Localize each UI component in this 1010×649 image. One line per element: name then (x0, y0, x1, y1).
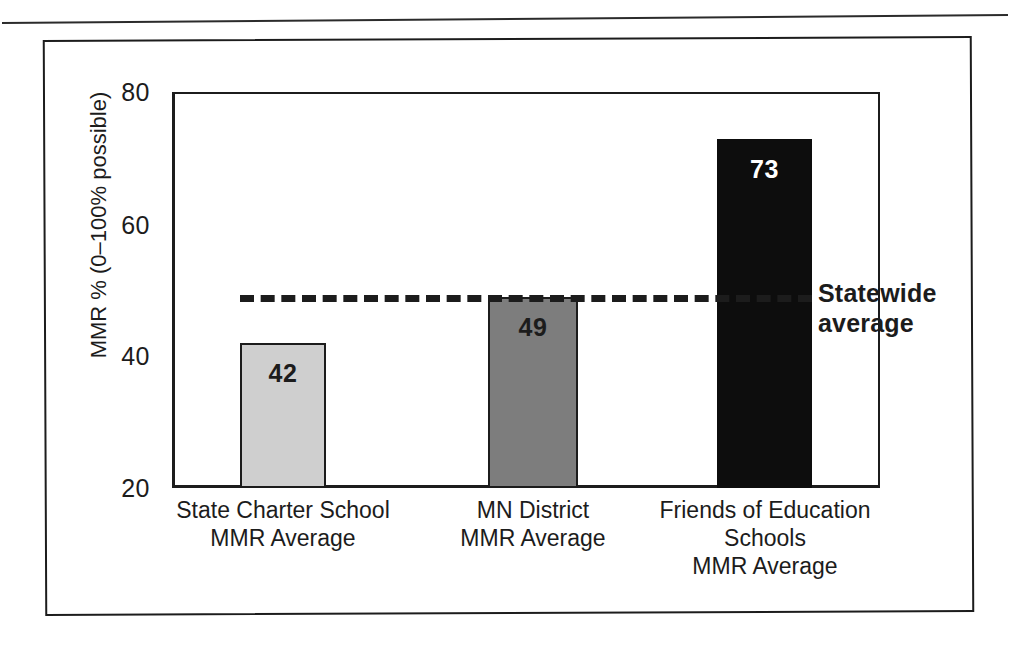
statewide-average-label: Statewide average (818, 278, 937, 338)
x-axis-label-state-charter-school: State Charter School MMR Average (140, 496, 426, 552)
x-axis-label-friends-of-education-schools-line3: MMR Average (624, 552, 906, 580)
bar-value-friends-of-education-schools: 73 (719, 155, 810, 184)
statewide-average-label-line1: Statewide (818, 278, 937, 308)
x-axis-label-state-charter-school-line2: MMR Average (140, 524, 426, 552)
x-axis-label-friends-of-education-schools-line1: Friends of Education (624, 496, 906, 524)
x-axis-label-state-charter-school-line1: State Charter School (140, 496, 426, 524)
bar-value-state-charter-school: 42 (242, 359, 324, 388)
x-axis-label-friends-of-education-schools-line2: Schools (624, 524, 906, 552)
y-axis-tick-60: 60 (90, 213, 150, 238)
bar-friends-of-education-schools[interactable]: 73 (717, 139, 812, 488)
y-axis-tick-80: 80 (90, 80, 150, 105)
bar-state-charter-school[interactable]: 42 (240, 343, 326, 488)
page-rule-line (2, 14, 1008, 24)
bar-mn-district[interactable]: 49 (488, 297, 578, 488)
bar-chart: MMR % (0–100% possible) 80 60 40 20 42 4… (44, 38, 973, 614)
y-axis-tick-40: 40 (90, 344, 150, 369)
statewide-average-line (240, 295, 812, 302)
x-axis-label-friends-of-education-schools: Friends of Education Schools MMR Average (624, 496, 906, 580)
bar-value-mn-district: 49 (490, 313, 576, 342)
statewide-average-label-line2: average (818, 308, 937, 338)
